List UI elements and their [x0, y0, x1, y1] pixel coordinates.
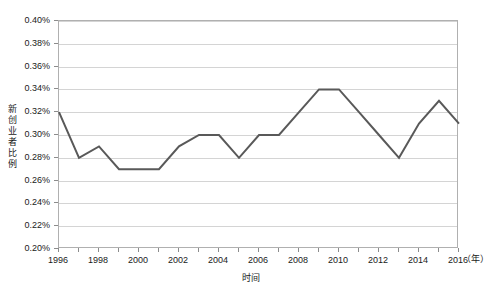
x-axis-tick-label: 2002: [168, 256, 188, 265]
x-axis-tick: [98, 248, 99, 252]
x-axis-tick-label: 1996: [48, 256, 68, 265]
x-axis-tick-label: 1998: [88, 256, 108, 265]
x-axis-tick: [458, 248, 459, 252]
x-axis-tick: [338, 248, 339, 252]
x-axis-tick-label: 2008: [288, 256, 308, 265]
y-axis-tick-label: 0.40%: [2, 16, 50, 25]
x-axis-unit-label: （年）: [462, 252, 489, 265]
x-axis-tick: [318, 248, 319, 252]
x-axis-tick: [258, 248, 259, 252]
x-axis-tick-label: 2010: [328, 256, 348, 265]
y-axis-tick-label: 0.30%: [2, 130, 50, 139]
x-axis-tick: [138, 248, 139, 252]
x-axis-tick: [398, 248, 399, 252]
y-axis-tick-label: 0.36%: [2, 62, 50, 71]
x-axis-tick: [278, 248, 279, 252]
x-axis-tick: [298, 248, 299, 252]
x-axis-tick: [78, 248, 79, 252]
y-axis-tick-label: 0.22%: [2, 221, 50, 230]
x-axis-tick: [238, 248, 239, 252]
y-axis-tick-label: 0.34%: [2, 84, 50, 93]
data-series-line: [59, 89, 459, 169]
x-axis-tick: [198, 248, 199, 252]
x-axis-tick-label: 2012: [368, 256, 388, 265]
x-axis-tick-label: 2014: [408, 256, 428, 265]
y-axis-tick-label: 0.20%: [2, 244, 50, 253]
x-axis-tick: [378, 248, 379, 252]
x-axis-tick-label: 2006: [248, 256, 268, 265]
x-axis-tick: [118, 248, 119, 252]
x-axis-tick-label: 2004: [208, 256, 228, 265]
line-chart: 新创业者比例 0.20%0.22%0.24%0.26%0.28%0.30%0.3…: [0, 0, 502, 296]
series-layer: [59, 21, 459, 249]
x-axis-title: 时间: [0, 271, 502, 284]
y-axis-tick-label: 0.24%: [2, 198, 50, 207]
y-axis-tick-label: 0.32%: [2, 107, 50, 116]
x-axis-tick: [58, 248, 59, 252]
plot-area: [58, 20, 458, 248]
x-axis-tick: [438, 248, 439, 252]
y-axis-tick-label: 0.38%: [2, 39, 50, 48]
x-axis-tick: [158, 248, 159, 252]
y-axis-tick-label: 0.28%: [2, 153, 50, 162]
y-axis-tick-label: 0.26%: [2, 176, 50, 185]
x-axis-tick-label: 2000: [128, 256, 148, 265]
x-axis-tick: [178, 248, 179, 252]
x-axis-tick: [358, 248, 359, 252]
x-axis-tick: [418, 248, 419, 252]
x-axis-tick: [218, 248, 219, 252]
